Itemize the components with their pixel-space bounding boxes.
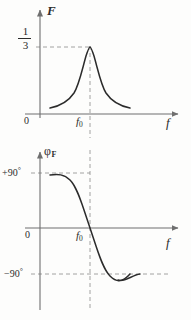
fraction-numerator: 1: [18, 26, 33, 37]
plus90-value: +90: [2, 167, 18, 178]
bottom-plot-group: [25, 150, 178, 310]
phi-subscript: F: [51, 150, 56, 159]
bottom-x-axis-label: f: [166, 236, 170, 249]
peak-value-fraction: 1 3: [18, 26, 33, 51]
f0-subscript-bottom: 0: [79, 234, 83, 243]
f0-subscript-top: 0: [79, 120, 83, 129]
bottom-y-axis-label: φF: [44, 145, 56, 159]
fraction-denominator: 3: [18, 40, 33, 51]
figure-container: F 1 3 0 f0 f φF +90° −90° 0 f0 f: [0, 0, 191, 320]
top-x-axis-label: f: [166, 116, 170, 129]
top-plot-group: [25, 10, 178, 138]
phase-upper-limit-label: +90°: [2, 167, 21, 178]
degree-sign-upper: °: [18, 166, 21, 175]
phi-symbol: φ: [44, 144, 51, 158]
bottom-origin-label: 0: [25, 230, 30, 240]
top-resonance-tick-label: f0: [76, 116, 83, 128]
bottom-resonance-tick-label: f0: [76, 230, 83, 242]
degree-sign-lower: °: [20, 267, 23, 276]
phase-lower-limit-label: −90°: [4, 268, 23, 279]
top-y-axis-label: F: [47, 4, 56, 17]
minus90-value: −90: [4, 268, 20, 279]
top-origin-label: 0: [24, 116, 29, 126]
